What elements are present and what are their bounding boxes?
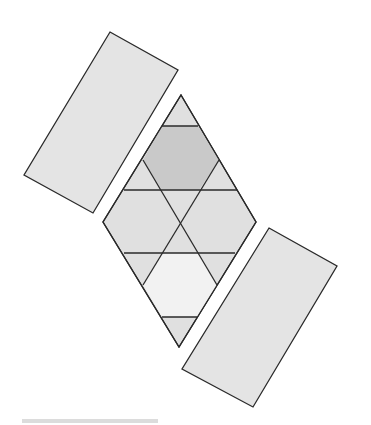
geometric-figure xyxy=(0,0,371,425)
caption-bar xyxy=(22,419,158,423)
